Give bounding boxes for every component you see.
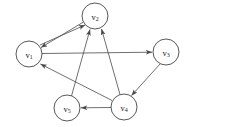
edge-v3-to-v4 — [132, 64, 161, 96]
directed-graph-figure: v1 v2 v3 v4 v5 — [0, 0, 226, 127]
node-v5[interactable]: v5 — [54, 95, 80, 121]
node-v2[interactable]: v2 — [82, 3, 108, 29]
nodes-group: v1 v2 v3 v4 v5 — [16, 3, 179, 121]
node-v1[interactable]: v1 — [16, 41, 42, 67]
node-v4[interactable]: v4 — [111, 94, 137, 120]
edges-group — [40, 22, 160, 108]
edge-v1-to-v2 — [40, 25, 85, 45]
graph-canvas: v1 v2 v3 v4 v5 — [0, 0, 226, 127]
edge-v1-to-v3 — [42, 52, 152, 53]
edge-v4-to-v2 — [102, 29, 121, 95]
node-v3[interactable]: v3 — [153, 39, 179, 65]
edge-v5-to-v2 — [72, 30, 91, 97]
edge-v4-to-v1 — [41, 64, 113, 101]
